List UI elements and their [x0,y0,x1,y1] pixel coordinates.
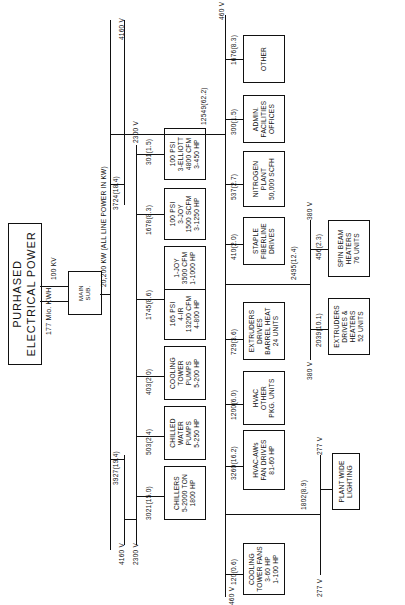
supply-voltage: 100 KV [50,257,57,280]
supply-line-2 [40,286,68,287]
load-joy-compressor: 1-JOY 3500 CFM 1-1000 HP [164,246,206,290]
load-admin-facilities: ADMIN. FACILITIES OFFICES [243,95,285,143]
load-value-1200: 1200(6.0) [230,390,237,420]
load-value-300: 300(1.5) [230,109,237,135]
load-value-1676: 1676(8.3) [230,35,237,65]
title-box: PURHASED ELECTRICAL POWER [8,223,42,365]
load-nitrogen-plant: NITROGEN PLANT 50,000 SCFH [243,151,285,207]
bus-label: 20,200 KW (ALL LINE POWER IN KW) [100,166,107,287]
feeder-460 [110,134,225,135]
load-hvac-fan-drives: HVAC-AWs FAN DRIVES 81-60 HP [243,430,285,490]
bus-4160-left [124,455,125,545]
load-hvac-other: HVAC OTHER PKG. UNITS [243,371,285,425]
feeder-380 [225,284,310,285]
bus-2300 [136,145,137,545]
load-spin-beam-heaters: SPIN BEAM HEATERS 76 UNITS [328,220,370,277]
load-value-503: 503(2.4) [145,429,152,455]
voltage-380-right: 380 V [306,202,313,220]
load-value-456: 456(2.3) [315,234,322,260]
voltage-2300-left: 2300 V [132,543,139,565]
main-sub-feed [100,294,110,295]
voltage-460-right: 460 V [218,2,225,20]
load-value-729: 729(3.6) [230,329,237,355]
load-value-537: 537(2.7) [230,174,237,200]
voltage-380-left: 380 V [306,362,313,380]
feeder-277 [225,514,320,515]
load-chillers: CHILLERS 5-2000 TON 1800 HP [164,466,206,520]
load-100psi-elliott: 100 PSI 3-ELLIOTT 4800 CFM 3-450 HP [164,128,206,180]
load-extruders-drives-heaters: EXTRUDERS DRIVES & HEATERS 52 UNITS [328,298,370,355]
diagram-title: PURHASED ELECTRICAL POWER [11,224,39,364]
load-100psi-joy: 100 PSI 3-JOY 1500 SCFM 3-1250 HP [164,188,206,240]
load-staple-fiberline: STAPLE FIBERLINE DRIVES [243,217,285,265]
voltage-277-right: 277 V [316,437,323,455]
bus-460 [225,15,226,597]
load-value-2039: 2039(10.1) [315,313,322,347]
load-value-1802: 1802(8.9) [300,480,307,510]
voltage-2300-right: 2300 V [132,121,139,143]
load-other: OTHER [243,35,285,83]
bus-380 [310,220,311,360]
branch-label-3724: 3724(18.4) [112,176,119,210]
main-substation: MAIN SUB. [68,271,102,315]
load-165psi-compressors: 165 PSI 4-IR 13200 CFM 4-800 HP [164,288,206,340]
load-value-120: 120(0.6) [230,559,237,585]
voltage-4160-right: 4160 V [118,18,125,40]
load-value-1678: 1678(8.3) [145,205,152,235]
load-value-2495: 2495(12.4) [290,246,297,280]
branch-label-12549: 12549(62.2) [200,87,207,125]
bus-277 [320,455,321,575]
load-cooling-tower-pumps: COOLING TOWER PUMPS 5-200 HP [164,346,206,400]
voltage-277-left: 277 V [316,579,323,597]
annual-consumption: 177 Mio. KWH [45,287,52,335]
load-value-3021: 3021(15.0) [145,486,152,520]
load-value-410: 410(2.0) [230,234,237,260]
load-plant-wide-lighting: PLANT WIDE LIGHTING [332,453,360,510]
load-value-301: 301(1.5) [145,139,152,165]
bus-4160-right [124,20,125,205]
bus-2300-stem-left [124,519,136,520]
load-value-3260: 3260(16.2) [230,446,237,480]
load-value-403: 403(2.0) [145,369,152,395]
load-chilled-water-pumps: CHILLED WATER PUMPS 5-250 HP [164,406,206,460]
voltage-4160-left: 4160 V [118,543,125,565]
drop-lighting [320,489,332,490]
branch-label-3927: 3927(19.4) [112,451,119,485]
power-distribution-diagram: PURHASED ELECTRICAL POWER 177 Mio. KWH 1… [0,0,405,605]
load-cooling-tower-fans: COOLING TOWER FANS 3-60 HP 1-100 HP [243,543,285,595]
voltage-460-left: 460 V [228,587,235,605]
load-value-1745: 1745(8.6) [145,290,152,320]
load-extruders-barrel-heat: EXTRUDERS DRIVES BARREL HEAT 24 UNITS [243,302,285,360]
supply-line-1 [40,301,68,302]
